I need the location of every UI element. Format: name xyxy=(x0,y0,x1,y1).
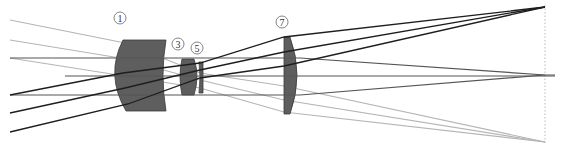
svg-text:7: 7 xyxy=(280,17,285,28)
svg-text:5: 5 xyxy=(195,43,200,54)
svg-text:1: 1 xyxy=(118,13,123,24)
lens-1-label: 1 xyxy=(114,12,126,24)
light-ray xyxy=(10,40,545,142)
axial-ray-bundle xyxy=(10,58,555,95)
lens-5-label: 5 xyxy=(191,42,203,54)
lens-7-label: 7 xyxy=(276,16,288,28)
lens-ray-diagram: 1357 xyxy=(0,0,561,155)
lens-3-label: 3 xyxy=(172,38,184,50)
svg-text:3: 3 xyxy=(176,39,181,50)
